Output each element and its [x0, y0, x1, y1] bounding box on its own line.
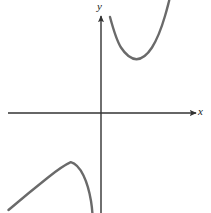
graph-figure: y x — [0, 0, 211, 213]
curve-lower-left-branch — [9, 162, 93, 213]
curve-upper-right-branch — [110, 1, 169, 60]
x-axis-label: x — [198, 106, 203, 117]
plot-canvas — [0, 0, 211, 213]
y-axis-label: y — [97, 1, 102, 12]
